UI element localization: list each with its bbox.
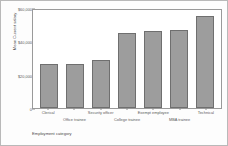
bar-slot <box>114 10 140 108</box>
plot-area <box>32 9 222 109</box>
bar <box>170 30 188 108</box>
x-axis-tick-label: Exempt employee <box>138 110 169 115</box>
bar-slot <box>88 10 114 108</box>
bar-slot <box>166 10 192 108</box>
x-axis-tick-label: College trainee <box>114 117 140 122</box>
x-axis-tick-label: Technical <box>198 110 214 115</box>
x-axis-tick-mark <box>179 108 180 110</box>
bar <box>144 31 162 109</box>
y-axis-tick-label: $60,000 <box>11 7 32 12</box>
x-axis-tick-label: Security officer <box>88 110 114 115</box>
x-axis-tick-label: Clerical <box>42 110 55 115</box>
bar <box>40 64 58 108</box>
x-axis-tick-mark <box>100 108 101 110</box>
y-axis-tick-label: $20,000 <box>11 73 32 78</box>
x-axis-tick-mark <box>74 108 75 110</box>
x-axis-tick-labels: ClericalOffice traineeSecurity officerCo… <box>32 110 222 128</box>
x-axis-tick-mark <box>48 108 49 110</box>
bar <box>118 33 136 108</box>
bar-slot <box>36 10 62 108</box>
x-axis-title: Employment category <box>32 131 72 136</box>
x-axis-tick-mark <box>127 108 128 110</box>
bar <box>196 16 214 109</box>
bar-slot <box>62 10 88 108</box>
bar <box>66 64 84 108</box>
bar-slot <box>140 10 166 108</box>
x-axis-tick-label: MBA trainee <box>169 117 190 122</box>
y-axis-tick-labels: 0$20,000$40,000$60,000 <box>11 9 32 109</box>
bar-slot <box>192 10 218 108</box>
x-axis-tick-mark <box>153 108 154 110</box>
y-axis-tick-label: $40,000 <box>11 40 32 45</box>
chart-figure: Mean Current salary 0$20,000$40,000$60,0… <box>0 0 228 146</box>
y-axis-tick-label: 0 <box>11 107 32 112</box>
bar <box>92 60 110 108</box>
x-axis-tick-mark <box>205 108 206 110</box>
bar-series <box>33 10 221 108</box>
x-axis-tick-label: Office trainee <box>63 117 86 122</box>
